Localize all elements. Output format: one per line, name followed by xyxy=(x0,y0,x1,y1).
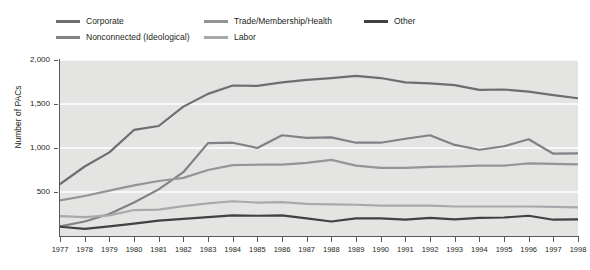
x-tick-mark-1998 xyxy=(578,237,579,242)
y-axis-tick-labels: 5001,0001,5002,000 xyxy=(0,0,58,270)
legend-swatch-trade-membership-health xyxy=(204,20,228,23)
y-tick-label-500: 500 xyxy=(0,188,58,196)
series-line-other xyxy=(60,215,578,229)
plot-area xyxy=(60,60,578,236)
x-tick-mark-1992 xyxy=(430,237,431,242)
x-tick-mark-1978 xyxy=(85,237,86,242)
x-tick-mark-1988 xyxy=(331,237,332,242)
series-line-nonconnected-ideological xyxy=(60,135,578,226)
y-tick-mark-1000 xyxy=(54,148,58,149)
x-tick-mark-1996 xyxy=(529,237,530,242)
series-line-corporate xyxy=(60,76,578,184)
y-tick-mark-500 xyxy=(54,192,58,193)
legend-item-trade-membership-health[interactable]: Trade/Membership/Health xyxy=(204,16,332,26)
legend-swatch-labor xyxy=(204,36,228,39)
y-axis-line xyxy=(59,59,60,237)
x-tick-mark-1980 xyxy=(134,237,135,242)
series-line-labor xyxy=(60,201,578,217)
x-axis-tick-labels: 1977197819791980198119821983198419851986… xyxy=(0,237,590,267)
x-tick-mark-1985 xyxy=(257,237,258,242)
legend-swatch-nonconnected xyxy=(56,36,80,39)
legend-label-labor: Labor xyxy=(234,32,256,42)
y-tick-mark-2000 xyxy=(54,60,58,61)
chart-legend: Corporate Nonconnected (Ideological) Tra… xyxy=(52,16,572,52)
legend-item-nonconnected[interactable]: Nonconnected (Ideological) xyxy=(56,32,189,42)
x-tick-mark-1987 xyxy=(307,237,308,242)
x-tick-mark-1982 xyxy=(183,237,184,242)
x-tick-mark-1994 xyxy=(479,237,480,242)
x-tick-mark-1989 xyxy=(356,237,357,242)
y-tick-mark-1500 xyxy=(54,104,58,105)
x-tick-mark-1993 xyxy=(455,237,456,242)
x-tick-mark-1981 xyxy=(159,237,160,242)
x-tick-mark-1990 xyxy=(381,237,382,242)
series-line-trade-membership-health xyxy=(60,160,578,200)
legend-item-labor[interactable]: Labor xyxy=(204,32,256,42)
x-tick-mark-1995 xyxy=(504,237,505,242)
x-tick-mark-1979 xyxy=(109,237,110,242)
x-tick-mark-1986 xyxy=(282,237,283,242)
x-tick-mark-1977 xyxy=(60,237,61,242)
legend-label-nonconnected: Nonconnected (Ideological) xyxy=(86,32,189,42)
x-tick-mark-1984 xyxy=(233,237,234,242)
y-tick-label-2000: 2,000 xyxy=(0,56,58,64)
pac-growth-line-chart: Corporate Nonconnected (Ideological) Tra… xyxy=(0,0,590,270)
x-tick-mark-1991 xyxy=(405,237,406,242)
plot-series-svg xyxy=(60,60,578,236)
legend-item-other[interactable]: Other xyxy=(364,16,415,26)
legend-swatch-corporate xyxy=(56,20,80,23)
x-tick-mark-1983 xyxy=(208,237,209,242)
legend-label-trade-membership-health: Trade/Membership/Health xyxy=(234,16,332,26)
x-tick-mark-1997 xyxy=(553,237,554,242)
legend-swatch-other xyxy=(364,20,388,23)
legend-label-other: Other xyxy=(394,16,415,26)
x-tick-label-1998: 1998 xyxy=(563,246,590,254)
legend-item-corporate[interactable]: Corporate xyxy=(56,16,124,26)
legend-label-corporate: Corporate xyxy=(86,16,124,26)
y-tick-label-1500: 1,500 xyxy=(0,100,58,108)
y-tick-label-1000: 1,000 xyxy=(0,144,58,152)
